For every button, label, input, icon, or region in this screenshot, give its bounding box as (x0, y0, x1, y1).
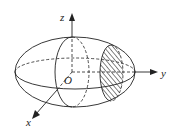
x-axis (36, 90, 57, 114)
y-axis-arrow-icon (150, 69, 158, 75)
origin-label: O (64, 74, 72, 86)
x-axis-label: x (25, 116, 31, 128)
y-axis-label: y (160, 67, 166, 79)
xz-section-front (55, 37, 72, 107)
ellipsoid-diagram: z y x O (0, 0, 179, 135)
z-axis-arrow-icon (69, 13, 75, 21)
z-axis-label: z (59, 11, 65, 23)
